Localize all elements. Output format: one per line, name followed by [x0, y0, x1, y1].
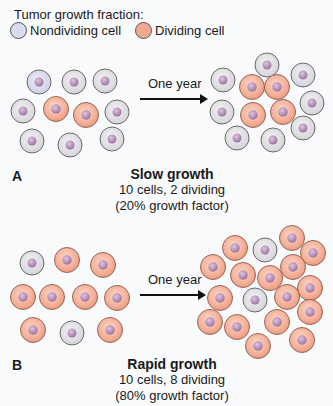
caption-a-line2: (20% growth factor)	[72, 198, 272, 214]
caption-b-title: Rapid growth	[72, 356, 272, 372]
panel-b-after-cells	[198, 226, 326, 359]
arrow-label-b: One year	[148, 272, 201, 287]
caption-a: Slow growth 10 cells, 2 dividing (20% gr…	[72, 166, 272, 214]
panel-letter-b: B	[12, 357, 22, 373]
panel-a-before-cells	[11, 69, 129, 157]
caption-b-line1: 10 cells, 8 dividing	[72, 372, 272, 388]
panel-letter-a: A	[12, 168, 22, 184]
arrow-label-a: One year	[148, 76, 201, 91]
caption-a-line1: 10 cells, 2 dividing	[72, 182, 272, 198]
caption-a-title: Slow growth	[72, 166, 272, 182]
caption-b-line2: (80% growth factor)	[72, 388, 272, 404]
panel-b-before-cells	[11, 248, 130, 346]
caption-b: Rapid growth 10 cells, 8 dividing (80% g…	[72, 356, 272, 404]
panel-a-after-cells	[210, 53, 324, 152]
